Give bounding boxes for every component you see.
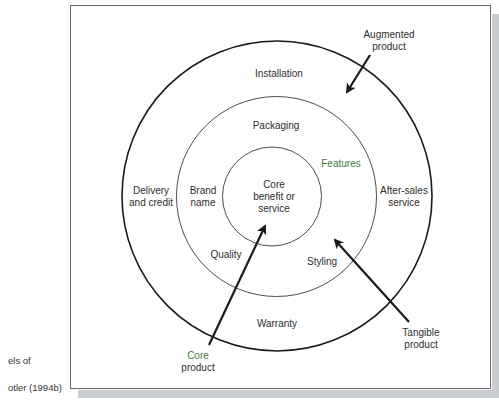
packaging-label: Packaging — [253, 120, 300, 132]
core-benefit-line-2: benefit or — [253, 191, 295, 203]
core-callout-line-1: Core — [181, 350, 214, 362]
installation-label: Installation — [255, 68, 303, 80]
tangible-product-callout: Tangible product — [402, 327, 439, 351]
delivery-credit-label: Delivery and credit — [129, 185, 173, 209]
quality-label: Quality — [210, 249, 241, 261]
after-sales-label: After-sales service — [380, 185, 428, 209]
core-benefit-line-1: Core — [253, 179, 295, 191]
core-product-callout: Core product — [181, 350, 214, 374]
delivery-credit-line-2: and credit — [129, 197, 173, 209]
tangible-callout-line-2: product — [402, 339, 439, 351]
core-benefit-line-3: service — [253, 203, 295, 215]
warranty-label: Warranty — [257, 318, 297, 330]
brand-name-label: Brand name — [190, 185, 217, 209]
augmented-callout-line-2: product — [363, 41, 414, 53]
brand-name-line-1: Brand — [190, 185, 217, 197]
features-label: Features — [321, 158, 360, 170]
augmented-callout-line-1: Augmented — [363, 29, 414, 41]
augmented-product-callout: Augmented product — [363, 29, 414, 53]
brand-name-line-2: name — [190, 197, 217, 209]
tangible-callout-line-1: Tangible — [402, 327, 439, 339]
core-callout-line-2: product — [181, 362, 214, 374]
after-sales-line-2: service — [380, 197, 428, 209]
after-sales-line-1: After-sales — [380, 185, 428, 197]
core-benefit-label: Core benefit or service — [253, 179, 295, 215]
styling-label: Styling — [307, 256, 337, 268]
tangible-arrow — [335, 240, 409, 322]
augmented-arrow — [347, 55, 370, 92]
delivery-credit-line-1: Delivery — [129, 185, 173, 197]
